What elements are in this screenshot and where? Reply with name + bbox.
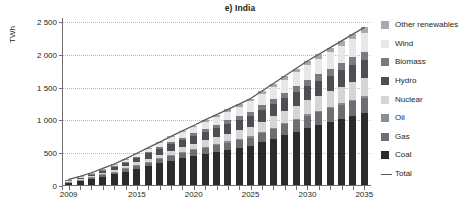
bar-segment-hydro bbox=[99, 171, 106, 174]
legend-line-marker bbox=[381, 174, 392, 175]
bar-segment-gas bbox=[338, 105, 345, 119]
legend-item-oil[interactable]: Oil bbox=[381, 109, 474, 128]
x-tick-label: 2020 bbox=[174, 190, 214, 199]
x-tick-mark bbox=[171, 186, 172, 190]
bar-segment-hydro bbox=[236, 120, 243, 130]
bar-segment-other-renewables bbox=[315, 54, 322, 58]
x-tick-label: 2025 bbox=[231, 190, 271, 199]
bar-segment-wind bbox=[327, 52, 334, 68]
bar-segment-coal bbox=[293, 132, 300, 186]
bar-segment-other-renewables bbox=[179, 131, 186, 132]
chart-figure: e) India TWh 05001 0001 5002 0002 500 20… bbox=[0, 0, 474, 214]
bar-segment-wind bbox=[179, 132, 186, 138]
legend-item-biomass[interactable]: Biomass bbox=[381, 53, 474, 72]
legend-swatch bbox=[381, 151, 389, 159]
bar-segment-nuclear bbox=[145, 159, 152, 162]
y-tick-label: 1 500 bbox=[11, 83, 57, 92]
bar-segment-gas bbox=[327, 108, 334, 122]
bar-segment-biomass bbox=[224, 120, 231, 124]
x-tick-mark bbox=[330, 186, 331, 190]
bar-segment-hydro bbox=[167, 144, 174, 150]
bar-segment-wind bbox=[111, 164, 118, 166]
gridline bbox=[63, 55, 370, 56]
legend-item-wind[interactable]: Wind bbox=[381, 35, 474, 54]
bar-segment-gas bbox=[167, 156, 174, 161]
bar-group bbox=[133, 153, 140, 186]
legend-swatch bbox=[381, 114, 389, 122]
bar-segment-coal bbox=[145, 166, 152, 186]
bar-segment-biomass bbox=[213, 125, 220, 128]
bar-segment-hydro bbox=[293, 92, 300, 106]
bar-segment-nuclear bbox=[304, 100, 311, 114]
bar-segment-gas bbox=[349, 101, 356, 116]
bar-segment-hydro bbox=[145, 153, 152, 158]
legend-item-total[interactable]: Total bbox=[381, 165, 474, 184]
bar-segment-oil bbox=[179, 152, 186, 153]
legend-label: Hydro bbox=[395, 77, 416, 85]
bar-segment-nuclear bbox=[99, 173, 106, 174]
plot-frame bbox=[63, 22, 370, 186]
bar-segment-nuclear bbox=[338, 87, 345, 104]
bar-segment-oil bbox=[213, 144, 220, 145]
x-tick-label: 2035 bbox=[344, 190, 384, 199]
bar-segment-biomass bbox=[190, 133, 197, 136]
bar-segment-oil bbox=[304, 114, 311, 115]
bar-segment-nuclear bbox=[270, 116, 277, 127]
bar-segment-oil bbox=[361, 96, 368, 98]
bar-segment-wind bbox=[236, 107, 243, 117]
legend-item-coal[interactable]: Coal bbox=[381, 146, 474, 165]
legend-swatch bbox=[381, 40, 389, 48]
bar-segment-wind bbox=[145, 148, 152, 152]
bar-segment-oil bbox=[224, 141, 231, 142]
bar-segment-gas bbox=[88, 178, 95, 179]
bar-segment-gas bbox=[65, 182, 72, 183]
legend-swatch bbox=[381, 96, 389, 104]
legend-label: Nuclear bbox=[395, 96, 423, 104]
bar-segment-oil bbox=[327, 107, 334, 108]
bar-segment-other-renewables bbox=[293, 69, 300, 73]
bar-group bbox=[167, 136, 174, 186]
bar-segment-gas bbox=[304, 116, 311, 128]
bar-segment-hydro bbox=[156, 149, 163, 155]
x-tick-label: 2009 bbox=[49, 190, 89, 199]
bar-segment-wind bbox=[167, 137, 174, 142]
bar-group bbox=[190, 126, 197, 186]
y-axis-line bbox=[62, 18, 63, 190]
bar-segment-hydro bbox=[247, 116, 254, 127]
x-tick-mark bbox=[273, 186, 274, 190]
bar-segment-oil bbox=[190, 149, 197, 150]
bar-segment-coal bbox=[224, 150, 231, 186]
bar-segment-wind bbox=[156, 143, 163, 147]
bar-segment-oil bbox=[247, 136, 254, 137]
bar-segment-coal bbox=[361, 113, 368, 186]
bar-segment-coal bbox=[327, 122, 334, 186]
bar-segment-nuclear bbox=[315, 96, 322, 111]
legend-item-other-renewables[interactable]: Other renewables bbox=[381, 16, 474, 35]
legend-item-hydro[interactable]: Hydro bbox=[381, 72, 474, 91]
bar-segment-hydro bbox=[338, 70, 345, 86]
bar-segment-other-renewables bbox=[190, 126, 197, 127]
bar-segment-biomass bbox=[270, 99, 277, 104]
bar-group bbox=[122, 159, 129, 186]
chart-legend: Other renewablesWindBiomassHydroNuclearO… bbox=[381, 16, 474, 183]
bar-segment-oil bbox=[122, 168, 129, 169]
bar-segment-nuclear bbox=[111, 170, 118, 172]
bar-segment-biomass bbox=[361, 52, 368, 60]
legend-swatch bbox=[381, 133, 389, 141]
bar-segment-coal bbox=[258, 142, 265, 186]
bar-segment-coal bbox=[304, 128, 311, 186]
bar-segment-nuclear bbox=[213, 137, 220, 144]
bar-segment-hydro bbox=[65, 180, 72, 181]
bar-segment-biomass bbox=[122, 162, 129, 163]
bar-segment-gas bbox=[315, 112, 322, 125]
bar-segment-other-renewables bbox=[247, 99, 254, 102]
bar-segment-gas bbox=[258, 133, 265, 142]
bar-segment-coal bbox=[179, 158, 186, 186]
legend-item-gas[interactable]: Gas bbox=[381, 128, 474, 147]
legend-item-nuclear[interactable]: Nuclear bbox=[381, 90, 474, 109]
bar-segment-gas bbox=[236, 140, 243, 148]
bar-segment-wind bbox=[304, 65, 311, 80]
y-tick-label: 2 500 bbox=[11, 18, 57, 27]
bar-segment-biomass bbox=[167, 142, 174, 144]
bar-group bbox=[145, 148, 152, 186]
